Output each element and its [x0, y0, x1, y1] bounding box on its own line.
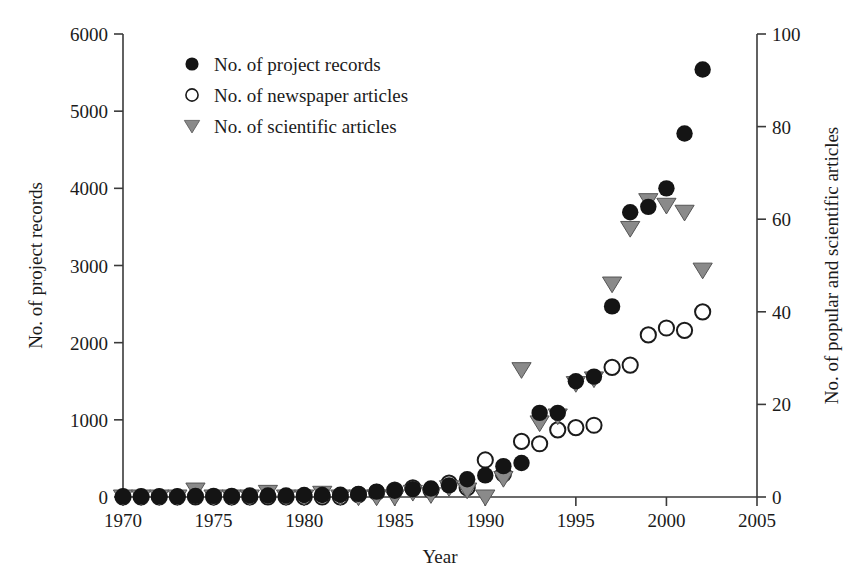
data-point — [151, 488, 167, 504]
data-point — [586, 418, 601, 433]
x-tick-label: 1990 — [466, 510, 504, 531]
legend-label-3: No. of scientific articles — [214, 116, 397, 137]
y-left-tick-label: 2000 — [70, 333, 108, 354]
data-point — [640, 199, 656, 215]
y-axis-right-title: No. of popular and scientific articles — [821, 127, 842, 405]
x-tick-label: 1975 — [195, 510, 233, 531]
data-point — [693, 263, 712, 279]
y-axis-left-title: No. of project records — [25, 182, 46, 349]
data-point — [169, 488, 185, 504]
series-2 — [115, 304, 710, 504]
y-right-tick-label: 0 — [772, 487, 782, 508]
data-point — [260, 487, 276, 503]
data-point — [115, 488, 131, 504]
data-point — [512, 363, 531, 379]
data-point — [675, 205, 694, 221]
data-point — [205, 488, 221, 504]
data-point — [641, 327, 656, 342]
y-left-tick-label: 1000 — [70, 410, 108, 431]
data-point — [531, 405, 547, 421]
data-point — [223, 488, 239, 504]
data-point — [604, 360, 619, 375]
series-1 — [115, 61, 711, 504]
data-point — [658, 180, 674, 196]
legend-label-2: No. of newspaper articles — [214, 85, 408, 106]
data-point — [423, 480, 439, 496]
axes-group — [114, 34, 766, 506]
legend-label-1: No. of project records — [214, 54, 381, 75]
data-point — [623, 357, 638, 372]
data-point — [242, 487, 258, 503]
scatter-plot: 1970197519801985199019952000200501000200… — [0, 0, 867, 586]
data-point — [459, 471, 475, 487]
data-point — [387, 483, 403, 499]
data-point — [133, 488, 149, 504]
data-point — [602, 277, 621, 293]
x-tick-label: 1985 — [376, 510, 414, 531]
data-point — [332, 486, 348, 502]
data-point — [568, 420, 583, 435]
legend-marker-2 — [186, 89, 198, 101]
data-point — [677, 323, 692, 338]
data-point — [476, 490, 495, 506]
y-right-tick-label: 80 — [772, 117, 791, 138]
y-right-tick-label: 40 — [772, 302, 791, 323]
y-left-tick-label: 4000 — [70, 178, 108, 199]
data-point — [695, 304, 710, 319]
data-point — [368, 483, 384, 499]
x-tick-label: 2000 — [647, 510, 685, 531]
x-tick-label: 1980 — [285, 510, 323, 531]
x-tick-label: 2005 — [738, 510, 776, 531]
data-point — [622, 204, 638, 220]
y-left-tick-label: 6000 — [70, 24, 108, 45]
data-point — [314, 487, 330, 503]
legend-marker-1 — [185, 57, 198, 70]
data-point — [621, 221, 640, 237]
data-point — [350, 486, 366, 502]
tick-labels-group: 1970197519801985199019952000200501000200… — [70, 24, 801, 531]
data-point — [604, 298, 620, 314]
data-point — [187, 488, 203, 504]
data-point — [405, 481, 421, 497]
data-point — [568, 373, 584, 389]
x-axis-title: Year — [422, 546, 458, 567]
data-point — [676, 125, 692, 141]
y-right-tick-label: 100 — [772, 24, 801, 45]
data-point — [296, 487, 312, 503]
y-left-tick-label: 0 — [99, 487, 109, 508]
data-point — [694, 61, 710, 77]
y-left-tick-label: 3000 — [70, 256, 108, 277]
data-point — [586, 368, 602, 384]
y-right-tick-label: 20 — [772, 394, 791, 415]
x-tick-label: 1970 — [104, 510, 142, 531]
data-point — [657, 198, 676, 214]
series-3 — [113, 194, 712, 506]
x-tick-label: 1995 — [557, 510, 595, 531]
data-point — [478, 452, 493, 467]
data-point — [477, 467, 493, 483]
chart-figure: 1970197519801985199019952000200501000200… — [0, 0, 867, 586]
y-left-tick-label: 5000 — [70, 101, 108, 122]
legend-marker-3 — [184, 120, 199, 133]
data-point — [495, 458, 511, 474]
data-point — [532, 436, 547, 451]
data-point — [278, 487, 294, 503]
data-point — [514, 434, 529, 449]
y-right-tick-label: 60 — [772, 209, 791, 230]
data-points-group — [113, 61, 712, 505]
data-point — [441, 477, 457, 493]
chart-legend: No. of project recordsNo. of newspaper a… — [184, 54, 408, 137]
data-point — [513, 455, 529, 471]
data-point — [550, 405, 566, 421]
data-point — [659, 320, 674, 335]
